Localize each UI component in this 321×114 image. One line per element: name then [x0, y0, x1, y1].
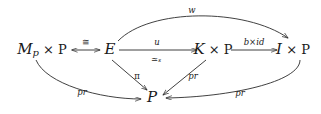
- node-mp: Mp × P: [16, 40, 67, 58]
- label-simeq: ≃s: [151, 54, 161, 64]
- node-kp: K × P: [192, 40, 232, 58]
- edge-pr-left: [36, 60, 141, 99]
- label-pr-right: pr: [235, 88, 245, 98]
- node-e: E: [104, 40, 116, 58]
- label-w: w: [188, 5, 196, 15]
- commutative-diagram: E (double headed) --> Mp × P E K × P I ×…: [0, 0, 321, 114]
- node-p: P: [146, 88, 158, 106]
- label-bxid: b×id: [244, 37, 265, 47]
- label-pr-left: pr: [77, 87, 87, 97]
- edge-pr-right: [166, 60, 300, 98]
- node-ip: I × P: [275, 40, 310, 58]
- edge-pr-kp: [163, 60, 206, 95]
- label-iso: ≅: [82, 37, 90, 47]
- label-pi: π: [134, 71, 140, 81]
- label-pr-kp: pr: [188, 71, 198, 81]
- edge-pi: [112, 60, 147, 90]
- label-u: u: [154, 37, 159, 47]
- diagram-canvas: E (double headed) --> Mp × P E K × P I ×…: [0, 0, 321, 114]
